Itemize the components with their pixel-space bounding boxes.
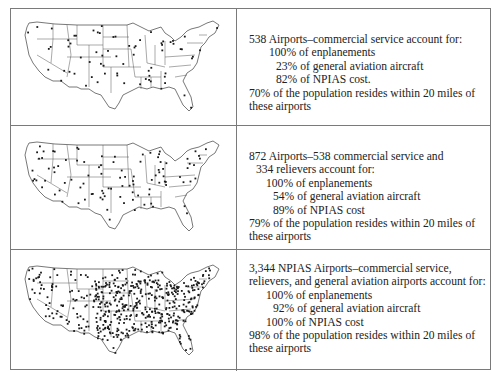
airport-dot — [68, 46, 70, 48]
airport-dot — [171, 292, 173, 294]
airport-dot — [139, 281, 141, 283]
text-cell: 538 Airports–commercial service account … — [237, 9, 490, 125]
airport-dot — [102, 277, 104, 279]
airport-dot — [194, 310, 196, 312]
airport-dot — [183, 299, 185, 301]
airport-dot — [85, 85, 87, 87]
airport-dot — [209, 270, 211, 272]
airport-dot — [43, 288, 45, 290]
airport-dot — [98, 287, 100, 289]
airport-dot — [136, 314, 138, 316]
airport-dot — [28, 278, 30, 280]
airport-dot — [95, 283, 97, 285]
airport-dot — [100, 197, 102, 199]
airport-dot — [135, 45, 137, 47]
airport-dot — [96, 51, 98, 53]
airport-dot — [53, 317, 55, 319]
airport-dot — [124, 176, 126, 178]
airport-dot — [153, 281, 155, 283]
airport-dot — [169, 314, 171, 316]
airport-dot — [158, 304, 160, 306]
airport-dot — [105, 311, 107, 313]
airport-dot — [140, 283, 142, 285]
airport-dot — [80, 315, 82, 317]
airport-dot — [145, 317, 147, 319]
airport-dot — [160, 317, 162, 319]
airport-dot — [109, 286, 111, 288]
airport-dot — [56, 313, 58, 315]
stat-npias-cost: 82% of NPIAS cost. — [249, 73, 475, 86]
airport-dot — [38, 158, 40, 160]
airport-dot — [130, 285, 132, 287]
airport-dot — [62, 201, 64, 203]
airport-dot — [97, 337, 99, 339]
airport-dot — [181, 310, 183, 312]
airport-dot — [97, 81, 99, 83]
airport-dot — [97, 329, 99, 331]
airport-dot — [165, 324, 167, 326]
airport-dot — [201, 283, 203, 285]
airport-dot — [115, 36, 117, 38]
population-note-cont: these airports — [249, 342, 486, 355]
airport-dot — [173, 315, 175, 317]
airport-dot — [166, 288, 168, 290]
airport-dot — [176, 308, 178, 310]
airport-dot — [53, 167, 55, 169]
airport-dot — [118, 301, 120, 303]
airport-dot — [70, 274, 72, 276]
airport-dot — [167, 300, 169, 302]
airport-dot — [137, 285, 139, 287]
airport-dot — [161, 50, 163, 52]
us-outline — [25, 265, 219, 355]
airport-dot — [109, 292, 111, 294]
airport-dot — [132, 191, 134, 193]
airport-dot — [154, 308, 156, 310]
airport-dot — [120, 339, 122, 341]
airport-dot — [53, 268, 55, 270]
airport-dot — [119, 177, 121, 179]
airport-dot — [170, 317, 172, 319]
stat-enplanements: 100% of enplanements — [249, 46, 475, 59]
airport-dot — [122, 307, 124, 309]
airport-dot — [110, 188, 112, 190]
airport-dot — [168, 318, 170, 320]
airport-dot — [174, 285, 176, 287]
airport-dot — [148, 324, 150, 326]
airport-dot — [88, 175, 90, 177]
airport-dot — [186, 310, 188, 312]
airport-dot — [144, 282, 146, 284]
airport-dot — [120, 314, 122, 316]
population-note: 98% of the population resides within 20 … — [249, 329, 486, 342]
airport-dot — [73, 307, 75, 309]
airport-dot — [107, 50, 109, 52]
airport-dot — [101, 155, 103, 157]
airport-dot — [117, 277, 119, 279]
airport-dot — [76, 299, 78, 301]
airport-dot — [203, 282, 205, 284]
airport-dot — [116, 75, 118, 77]
airport-dot — [185, 349, 187, 351]
airport-dot — [175, 322, 177, 324]
airport-dot — [183, 282, 185, 284]
airport-dot — [202, 274, 204, 276]
airport-dot — [208, 268, 210, 270]
airport-dot — [178, 305, 180, 307]
airport-dot — [104, 314, 106, 316]
airport-dot — [83, 183, 85, 185]
airport-dot — [41, 186, 43, 188]
airport-dot — [161, 332, 163, 334]
airport-dot — [129, 185, 131, 187]
airport-dot — [134, 269, 136, 271]
airport-dot — [159, 285, 161, 287]
airport-dot — [150, 81, 152, 83]
airport-dot — [76, 160, 78, 162]
airport-dot — [116, 310, 118, 312]
airport-dot — [149, 279, 151, 281]
airport-dot — [172, 306, 174, 308]
airport-dot — [116, 330, 118, 332]
airport-dot — [87, 321, 89, 323]
airport-dot — [192, 56, 194, 58]
airport-dot — [64, 182, 66, 184]
airport-dot — [166, 285, 168, 287]
airport-dot — [96, 296, 98, 298]
